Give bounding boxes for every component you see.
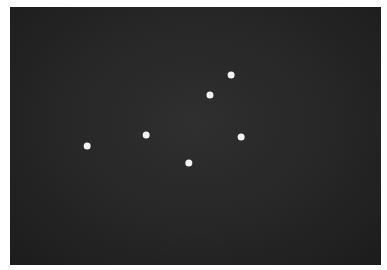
white-dot: [84, 143, 91, 150]
white-dot: [228, 72, 235, 79]
white-dot: [206, 91, 213, 98]
dot-field: [10, 7, 381, 265]
white-dot: [238, 134, 245, 141]
dot-photograph: [10, 7, 381, 265]
white-dot: [185, 160, 192, 167]
white-dot: [143, 131, 150, 138]
